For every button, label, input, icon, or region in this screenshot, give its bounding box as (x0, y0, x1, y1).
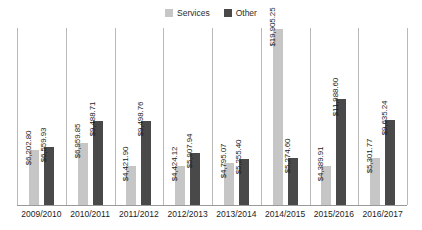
bar-value-label: $11,988.60 (331, 78, 341, 116)
bar-group: $4,424.12$5,907.94 (163, 28, 212, 205)
x-axis-labels: 2009/20102010/20112011/20122012/20132013… (17, 208, 407, 226)
x-tick-label: 2011/2012 (115, 208, 164, 220)
bar-services[interactable]: $6,959.85 (78, 28, 88, 205)
bar-group: $19,905.25$5,274.60 (261, 28, 310, 205)
legend-item-services[interactable]: Services (165, 9, 210, 18)
x-tick-label: 2014/2015 (261, 208, 310, 220)
bar-value-label: $5,907.94 (185, 133, 195, 168)
bar-chart: Services Other $6,202.80$6,559.93$6,959.… (0, 0, 422, 230)
bar-rect (273, 29, 283, 205)
bar-services[interactable]: $4,795.07 (224, 28, 234, 205)
bar-other[interactable]: $5,907.94 (190, 28, 200, 205)
bar-value-label: $6,202.80 (24, 131, 34, 166)
legend-swatch-services (165, 9, 173, 17)
bar-group: $4,389.91$11,988.60 (310, 28, 359, 205)
bar-value-label: $5,301.77 (365, 139, 375, 174)
bar-group: $4,795.07$5,255.40 (212, 28, 261, 205)
bar-value-label: $4,795.07 (219, 143, 229, 178)
bar-other[interactable]: $6,559.93 (44, 28, 54, 205)
x-tick-label: 2010/2011 (66, 208, 115, 220)
bar-other[interactable]: $5,274.60 (288, 28, 298, 205)
legend-item-other[interactable]: Other (224, 9, 257, 18)
bar-value-label: $6,559.93 (39, 128, 49, 163)
bar-value-label: $5,255.40 (234, 139, 244, 174)
legend-label-services: Services (177, 9, 210, 18)
x-tick-label: 2016/2017 (358, 208, 407, 220)
bar-value-label: $9,635.24 (380, 100, 390, 135)
bar-value-label: $9,498.76 (136, 102, 146, 137)
bar-value-label: $4,421.90 (121, 147, 131, 182)
bar-other[interactable]: $11,988.60 (336, 28, 346, 205)
legend-label-other: Other (236, 9, 257, 18)
bar-value-label: $19,905.25 (268, 7, 278, 46)
bar-group: $4,421.90$9,498.76 (115, 28, 164, 205)
x-tick-label: 2015/2016 (310, 208, 359, 220)
bar-value-label: $6,959.85 (73, 124, 83, 159)
x-tick-label: 2009/2010 (17, 208, 66, 220)
bar-other[interactable]: $9,488.71 (93, 28, 103, 205)
bar-services[interactable]: $4,424.12 (175, 28, 185, 205)
gridline (407, 28, 408, 205)
bar-group: $6,202.80$6,559.93 (17, 28, 66, 205)
legend-swatch-other (224, 9, 232, 17)
chart-legend: Services Other (0, 6, 422, 20)
bar-group: $6,959.85$9,488.71 (66, 28, 115, 205)
x-tick-label: 2013/2014 (212, 208, 261, 220)
bar-value-label: $9,488.71 (88, 102, 98, 137)
bar-services[interactable]: $4,421.90 (126, 28, 136, 205)
bar-other[interactable]: $9,635.24 (385, 28, 395, 205)
axis-baseline (17, 205, 407, 206)
bar-value-label: $4,389.91 (316, 147, 326, 182)
bar-services[interactable]: $5,301.77 (370, 28, 380, 205)
bar-value-label: $5,274.60 (283, 139, 293, 174)
plot-area: $6,202.80$6,559.93$6,959.85$9,488.71$4,4… (17, 28, 407, 205)
bar-services[interactable]: $19,905.25 (273, 28, 283, 205)
bar-services[interactable]: $6,202.80 (29, 28, 39, 205)
bar-value-label: $4,424.12 (170, 147, 180, 182)
bar-other[interactable]: $5,255.40 (239, 28, 249, 205)
bar-other[interactable]: $9,498.76 (141, 28, 151, 205)
x-tick-label: 2012/2013 (163, 208, 212, 220)
bar-group: $5,301.77$9,635.24 (358, 28, 407, 205)
bar-services[interactable]: $4,389.91 (321, 28, 331, 205)
